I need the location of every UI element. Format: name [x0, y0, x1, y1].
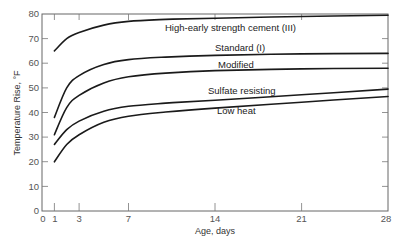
label-modified: Modified — [218, 59, 254, 70]
svg-text:50: 50 — [28, 82, 39, 93]
svg-text:14: 14 — [210, 213, 221, 224]
label-sulfate-resisting: Sulfate resisting — [208, 85, 276, 96]
svg-text:80: 80 — [28, 8, 39, 19]
y-axis-title: Temperature Rise, °F — [12, 70, 22, 156]
curve-modified — [54, 68, 388, 135]
svg-text:28: 28 — [381, 213, 392, 224]
x-axis-title: Age, days — [195, 226, 236, 236]
svg-text:21: 21 — [296, 213, 307, 224]
svg-text:3: 3 — [76, 213, 81, 224]
svg-text:10: 10 — [28, 181, 39, 192]
svg-text:40: 40 — [28, 107, 39, 118]
temperature-rise-chart: 0 10 20 30 40 50 60 70 80 0 1 3 7 14 21 … — [0, 0, 407, 249]
svg-text:7: 7 — [126, 213, 131, 224]
y-axis-ticks — [42, 39, 388, 187]
svg-text:30: 30 — [28, 131, 39, 142]
y-tick-labels: 0 10 20 30 40 50 60 70 80 — [28, 8, 39, 216]
curve-sulfate-resisting — [54, 89, 388, 144]
x-tick-labels: 0 1 3 7 14 21 28 — [40, 213, 391, 224]
svg-text:70: 70 — [28, 33, 39, 44]
label-high-early: High-early strength cement (III) — [165, 22, 296, 33]
svg-text:20: 20 — [28, 156, 39, 167]
svg-text:1: 1 — [52, 213, 57, 224]
label-low-heat: Low heat — [217, 105, 256, 116]
svg-text:60: 60 — [28, 57, 39, 68]
svg-text:0: 0 — [40, 213, 45, 224]
label-standard: Standard (I) — [215, 42, 265, 53]
svg-text:0: 0 — [34, 205, 39, 216]
